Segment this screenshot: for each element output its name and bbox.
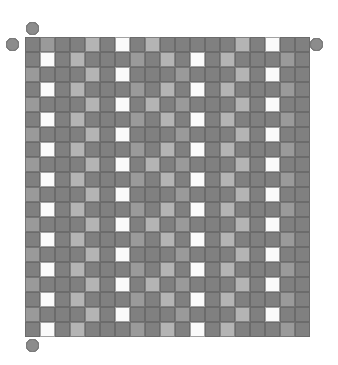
mosaic-cell <box>55 82 70 97</box>
mosaic-cell <box>265 157 280 172</box>
mosaic-cell <box>85 97 100 112</box>
mosaic-cell <box>220 127 235 142</box>
mosaic-cell <box>160 127 175 142</box>
mosaic-cell <box>25 112 40 127</box>
mosaic-cell <box>145 52 160 67</box>
mosaic-cell <box>85 277 100 292</box>
mosaic-cell <box>265 142 280 157</box>
mosaic-cell <box>265 307 280 322</box>
mosaic-cell <box>145 307 160 322</box>
mosaic-cell <box>160 232 175 247</box>
mosaic-cell <box>130 52 145 67</box>
mosaic-cell <box>220 277 235 292</box>
mosaic-cell <box>220 322 235 337</box>
mosaic-cell <box>280 292 295 307</box>
mosaic-cell <box>235 112 250 127</box>
mosaic-cell <box>220 187 235 202</box>
mosaic-cell <box>160 142 175 157</box>
mosaic-cell <box>40 82 55 97</box>
mosaic-cell <box>130 37 145 52</box>
mosaic-cell <box>190 292 205 307</box>
mosaic-cell <box>115 187 130 202</box>
mosaic-cell <box>145 67 160 82</box>
mosaic-cell <box>100 247 115 262</box>
mosaic-cell <box>145 202 160 217</box>
mosaic-cell <box>145 142 160 157</box>
mosaic-cell <box>175 112 190 127</box>
mosaic-cell <box>70 172 85 187</box>
mosaic-cell <box>190 322 205 337</box>
mosaic-cell <box>25 232 40 247</box>
mosaic-cell <box>280 232 295 247</box>
mosaic-cell <box>130 322 145 337</box>
mosaic-cell <box>250 97 265 112</box>
mosaic-cell <box>175 67 190 82</box>
mosaic-figure <box>0 0 338 365</box>
mosaic-cell <box>130 292 145 307</box>
mosaic-cell <box>205 202 220 217</box>
mosaic-cell <box>115 262 130 277</box>
mosaic-cell <box>115 172 130 187</box>
mosaic-cell <box>295 82 310 97</box>
mosaic-cell <box>265 172 280 187</box>
mosaic-cell <box>160 262 175 277</box>
mosaic-cell <box>235 82 250 97</box>
mosaic-cell <box>235 262 250 277</box>
mosaic-cell <box>115 127 130 142</box>
mosaic-cell <box>55 127 70 142</box>
mosaic-cell <box>55 67 70 82</box>
mosaic-cell <box>25 202 40 217</box>
mosaic-cell <box>280 127 295 142</box>
mosaic-cell <box>130 127 145 142</box>
mosaic-cell <box>235 217 250 232</box>
mosaic-cell <box>235 172 250 187</box>
mosaic-cell <box>205 127 220 142</box>
mosaic-cell <box>85 82 100 97</box>
mosaic-cell <box>250 142 265 157</box>
mosaic-cell <box>220 232 235 247</box>
mosaic-cell <box>130 157 145 172</box>
mosaic-cell <box>70 277 85 292</box>
mosaic-cell <box>250 262 265 277</box>
mosaic-cell <box>250 217 265 232</box>
mosaic-cell <box>130 247 145 262</box>
mosaic-cell <box>130 172 145 187</box>
mosaic-cell <box>115 292 130 307</box>
mosaic-cell <box>160 157 175 172</box>
mosaic-cell <box>265 37 280 52</box>
mosaic-cell <box>280 67 295 82</box>
mosaic-cell <box>235 97 250 112</box>
mosaic-cell <box>55 97 70 112</box>
mosaic-cell <box>40 322 55 337</box>
mosaic-cell <box>175 172 190 187</box>
mosaic-cell <box>55 37 70 52</box>
mosaic-cell <box>85 247 100 262</box>
mosaic-cell <box>55 112 70 127</box>
mosaic-cell <box>100 322 115 337</box>
mosaic-cell <box>265 202 280 217</box>
mosaic-cell <box>25 67 40 82</box>
mosaic-cell <box>190 37 205 52</box>
mosaic-cell <box>295 292 310 307</box>
mosaic-cell <box>40 172 55 187</box>
mosaic-cell <box>235 127 250 142</box>
mosaic-cell <box>280 142 295 157</box>
mosaic-cell <box>40 202 55 217</box>
mosaic-cell <box>220 142 235 157</box>
mosaic-cell <box>40 112 55 127</box>
mosaic-cell <box>40 157 55 172</box>
mosaic-cell <box>115 52 130 67</box>
mosaic-cell <box>160 82 175 97</box>
mosaic-cell <box>235 157 250 172</box>
mosaic-cell <box>280 322 295 337</box>
mosaic-cell <box>100 187 115 202</box>
mosaic-cell <box>25 97 40 112</box>
mosaic-cell <box>130 307 145 322</box>
bottom-marker-circle <box>26 339 39 352</box>
mosaic-cell <box>175 187 190 202</box>
mosaic-cell <box>40 307 55 322</box>
mosaic-cell <box>70 202 85 217</box>
mosaic-cell <box>100 232 115 247</box>
mosaic-cell <box>130 232 145 247</box>
mosaic-cell <box>25 172 40 187</box>
